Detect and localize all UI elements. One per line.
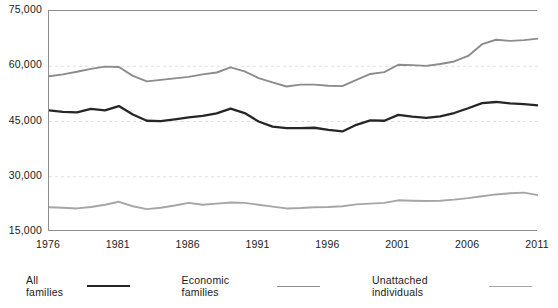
legend-item[interactable]: All families [26, 274, 130, 298]
x-tick-label: 1986 [168, 238, 208, 250]
legend-item[interactable]: Unattached individuals [372, 274, 532, 298]
y-tick-label: 60,000 [0, 58, 42, 70]
x-tick-label: 2001 [377, 238, 417, 250]
x-tick-label: 1991 [238, 238, 278, 250]
x-tick-label: 1996 [307, 238, 347, 250]
series-line [49, 102, 538, 131]
chart-legend: All familiesEconomic familiesUnattached … [0, 276, 558, 296]
series-line [49, 193, 538, 210]
line-chart: 75,00060,00045,00030,00015,000 197619811… [0, 0, 558, 308]
y-tick-label: 15,000 [0, 224, 42, 236]
x-tick-label: 2011 [517, 238, 557, 250]
legend-color-swatch [489, 286, 532, 287]
plot-svg [49, 11, 538, 232]
legend-item-label: Unattached individuals [372, 274, 480, 298]
y-tick-label: 30,000 [0, 169, 42, 181]
y-tick-label: 75,000 [0, 3, 42, 15]
y-tick-label: 45,000 [0, 114, 42, 126]
series-line [49, 39, 538, 87]
legend-color-swatch [277, 286, 320, 287]
plot-area [48, 10, 537, 231]
x-tick-label: 1976 [28, 238, 68, 250]
x-tick-label: 1981 [98, 238, 138, 250]
legend-item[interactable]: Economic families [182, 274, 320, 298]
legend-color-swatch [87, 285, 130, 287]
x-tick-label: 2006 [447, 238, 487, 250]
legend-item-label: Economic families [182, 274, 268, 298]
legend-item-label: All families [26, 274, 78, 298]
